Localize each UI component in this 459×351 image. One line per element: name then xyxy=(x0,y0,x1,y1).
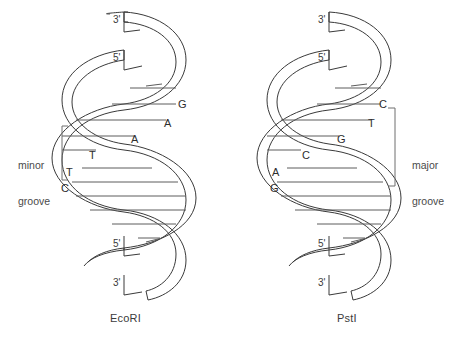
major-groove-bracket xyxy=(388,108,395,186)
helix-direction-ticks xyxy=(146,84,162,242)
helix-direction-ticks xyxy=(351,84,367,242)
strand-b-lower-edge-2 xyxy=(88,248,124,262)
psti-base-2: T xyxy=(368,118,375,129)
caption-psti: PstI xyxy=(337,313,357,324)
psti-base-3: G xyxy=(337,134,346,145)
ecori-base-6: C xyxy=(61,183,69,194)
ecori-base-2: A xyxy=(164,118,171,129)
psti-base-4: C xyxy=(302,150,310,161)
psti-bottom-5prime-label: 5' xyxy=(318,238,325,249)
ecori-base-3: A xyxy=(131,134,138,145)
base-pair-rungs-lower xyxy=(277,168,391,238)
major-groove-label: major groove xyxy=(412,135,444,231)
terminator-top-3prime xyxy=(124,12,140,32)
terminator-bottom-3prime xyxy=(124,275,142,295)
terminator-bottom-5prime xyxy=(124,236,140,256)
terminator-top-5prime xyxy=(329,50,347,70)
major-groove-label-line1: major xyxy=(412,159,444,171)
major-groove-label-line2: groove xyxy=(412,195,444,207)
terminator-bottom-5prime xyxy=(329,236,345,256)
psti-base-5: A xyxy=(272,167,279,178)
base-pair-rungs-upper xyxy=(267,88,381,150)
strand-b-edge-1 xyxy=(62,50,186,250)
strand-a-edge-1 xyxy=(62,12,186,300)
terminator-top-5prime xyxy=(124,50,142,70)
strand-b-edge-2 xyxy=(277,60,401,248)
strand-b-lower-edge-1 xyxy=(84,250,124,266)
strand-a-cap-bottom xyxy=(351,291,353,300)
psti-bottom-3prime-label: 3' xyxy=(318,277,325,288)
strand-a-cap-bottom xyxy=(146,291,148,300)
minor-groove-label: minor groove xyxy=(18,135,50,231)
ecori-top-3prime-label: 3' xyxy=(113,14,120,25)
base-pair-rungs-lower xyxy=(72,168,186,238)
dna-restriction-site-figure: 3' 5' 5' 3' G A A T T C minor groove 3' … xyxy=(0,0,459,351)
ecori-bottom-3prime-label: 3' xyxy=(113,277,120,288)
ecori-base-1: G xyxy=(178,99,187,110)
terminator-top-3prime xyxy=(329,12,345,32)
strand-b-edge-1 xyxy=(267,50,391,250)
minor-groove-label-line2: groove xyxy=(18,195,50,207)
strand-b-lower-edge-2 xyxy=(293,248,329,262)
psti-top-3prime-label: 3' xyxy=(318,14,325,25)
minor-groove-label-line1: minor xyxy=(18,159,50,171)
ecori-base-5: T xyxy=(66,167,73,178)
caption-ecori: EcoRI xyxy=(110,313,141,324)
psti-top-5prime-label: 5' xyxy=(318,52,325,63)
strand-b-lower-edge-1 xyxy=(289,250,329,266)
strand-a-cap-top-flat xyxy=(124,12,128,22)
helix-psti xyxy=(257,12,401,300)
helix-ecori xyxy=(52,12,196,300)
terminator-bottom-3prime xyxy=(329,275,347,295)
ecori-bottom-5prime-label: 5' xyxy=(113,238,120,249)
ecori-base-4: T xyxy=(89,150,96,161)
strand-a-edge-1 xyxy=(267,12,391,300)
psti-base-6: G xyxy=(270,183,279,194)
psti-base-1: C xyxy=(379,99,387,110)
base-pair-rungs-upper xyxy=(62,88,176,150)
ecori-top-5prime-label: 5' xyxy=(113,52,120,63)
